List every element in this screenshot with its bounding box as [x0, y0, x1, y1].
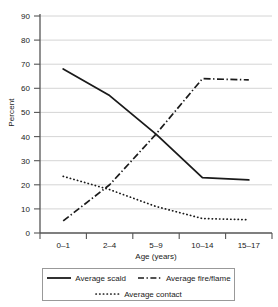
legend-item-average-fire-flame: Average fire/flame [137, 274, 231, 283]
legend-item-average-scald: Average scald [46, 274, 126, 283]
y-tick-label: 0 [26, 229, 31, 238]
series-line-average-scald [63, 69, 249, 180]
legend-swatch-dash-dot-icon [137, 274, 163, 282]
x-tick-label: 2–4 [103, 241, 117, 250]
legend-label: Average scald [75, 274, 126, 283]
x-tick-label: 15–17 [238, 241, 261, 250]
y-tick-label: 40 [21, 133, 30, 142]
plot-area: 90 80 70 60 50 40 30 20 10 0 [0, 0, 278, 250]
x-axis-ticks [40, 233, 272, 239]
y-tick-label: 20 [21, 181, 30, 190]
legend-item-average-contact: Average contact [95, 290, 182, 299]
x-tick-label: 5–9 [149, 241, 163, 250]
x-tick-label: 10–14 [191, 241, 214, 250]
y-tick-label: 70 [21, 60, 30, 69]
chart-legend: Average scald Average fire/flame Average… [42, 268, 235, 301]
y-tick-label: 10 [21, 205, 30, 214]
line-chart-svg: 90 80 70 60 50 40 30 20 10 0 [0, 0, 278, 250]
y-tick-label: 80 [21, 36, 30, 45]
x-tick-label: 0–1 [57, 241, 71, 250]
chart-figure: 90 80 70 60 50 40 30 20 10 0 [0, 0, 278, 307]
y-tick-label: 60 [21, 84, 30, 93]
series-line-average-fire-flame [63, 79, 249, 221]
series-line-average-contact [63, 176, 249, 219]
y-tick-label: 90 [21, 12, 30, 21]
legend-label: Average contact [124, 290, 182, 299]
x-axis-tick-labels: 0–1 2–4 5–9 10–14 15–17 [57, 241, 261, 250]
y-axis-ticks [34, 16, 40, 233]
y-tick-label: 30 [21, 157, 30, 166]
x-axis-title: Age (years) [36, 252, 276, 261]
legend-label: Average fire/flame [166, 274, 231, 283]
y-axis-title: Percent [7, 78, 16, 148]
y-axis-tick-labels: 90 80 70 60 50 40 30 20 10 0 [21, 12, 30, 238]
y-tick-label: 50 [21, 108, 30, 117]
legend-swatch-dotted-icon [95, 290, 121, 298]
legend-swatch-solid-icon [46, 274, 72, 282]
